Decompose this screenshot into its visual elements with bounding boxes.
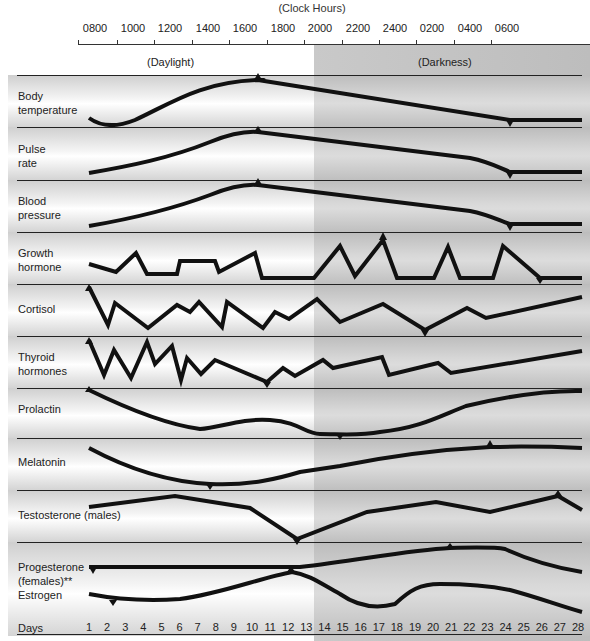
row-label-line: Body bbox=[18, 89, 77, 103]
day-tick-label: 7 bbox=[195, 621, 201, 633]
growth-hormone-curve bbox=[89, 240, 582, 278]
progesterone-curve bbox=[89, 548, 582, 572]
pulse-peak-marker bbox=[254, 126, 262, 132]
body-temp-peak-marker bbox=[254, 73, 262, 80]
day-tick-label: 5 bbox=[158, 621, 164, 633]
cortisol-peak-marker bbox=[85, 284, 93, 291]
day-tick-label: 1 bbox=[86, 621, 92, 633]
day-tick-label: 18 bbox=[391, 621, 403, 633]
day-tick-label: 26 bbox=[536, 621, 548, 633]
cortisol-trough-marker bbox=[421, 330, 429, 337]
days-label: Days bbox=[18, 621, 43, 635]
day-tick-label: 11 bbox=[264, 621, 275, 633]
row-label: Melatonin bbox=[18, 455, 66, 469]
row-label: Thyroidhormones bbox=[18, 350, 67, 378]
row-label-line: Estrogen bbox=[18, 588, 84, 602]
row-label-line: Testosterone (males) bbox=[18, 508, 121, 522]
row-label: Progesterone(females)**Estrogen bbox=[18, 560, 84, 602]
row-label: Pulserate bbox=[18, 142, 46, 170]
estrogen-trough-marker bbox=[109, 600, 117, 606]
row-label: Growthhormone bbox=[18, 246, 61, 274]
blood-pressure-curve bbox=[89, 185, 582, 226]
row-label: Prolactin bbox=[18, 402, 61, 416]
row-label-line: rate bbox=[18, 156, 46, 170]
melatonin-peak-marker bbox=[486, 440, 494, 447]
melatonin-curve bbox=[89, 447, 582, 485]
bp-peak-marker bbox=[254, 178, 262, 185]
peak-trough-markers bbox=[85, 73, 562, 606]
day-tick-label: 14 bbox=[318, 621, 330, 633]
day-tick-label: 27 bbox=[554, 621, 566, 633]
row-label-line: Blood bbox=[18, 194, 61, 208]
bp-trough-marker bbox=[506, 224, 514, 231]
progesterone-peak-marker bbox=[446, 543, 454, 548]
day-tick-label: 2 bbox=[104, 621, 110, 633]
prolactin-trough-marker bbox=[336, 434, 344, 440]
day-tick-label: 20 bbox=[427, 621, 439, 633]
day-tick-label: 3 bbox=[122, 621, 128, 633]
thyroid-peak-marker bbox=[85, 337, 93, 344]
day-tick-label: 10 bbox=[246, 621, 258, 633]
estrogen-curve bbox=[89, 572, 582, 612]
day-tick-label: 4 bbox=[140, 621, 146, 633]
row-label: Bloodpressure bbox=[18, 194, 61, 222]
day-tick-label: 6 bbox=[176, 621, 182, 633]
pulse-rate-curve bbox=[89, 132, 582, 173]
row-label-line: Prolactin bbox=[18, 402, 61, 416]
row-label: Testosterone (males) bbox=[18, 508, 121, 522]
row-label-line: Thyroid bbox=[18, 350, 67, 364]
day-tick-label: 15 bbox=[336, 621, 348, 633]
testosterone-trough-marker bbox=[293, 539, 301, 545]
day-tick-label: 23 bbox=[481, 621, 493, 633]
thyroid-trough-marker bbox=[263, 382, 271, 388]
day-tick-label: 12 bbox=[282, 621, 294, 633]
gh-peak-marker bbox=[379, 232, 387, 240]
day-tick-label: 19 bbox=[409, 621, 421, 633]
row-label-line: Growth bbox=[18, 246, 61, 260]
day-tick-label: 25 bbox=[518, 621, 530, 633]
row-label: Cortisol bbox=[18, 302, 55, 316]
day-tick-label: 8 bbox=[213, 621, 219, 633]
row-label-line: hormones bbox=[18, 364, 67, 378]
day-tick-label: 9 bbox=[231, 621, 237, 633]
day-tick-label: 17 bbox=[373, 621, 385, 633]
day-tick-label: 21 bbox=[445, 621, 457, 633]
row-label-line: Progesterone bbox=[18, 560, 84, 574]
day-tick-label: 22 bbox=[463, 621, 475, 633]
day-tick-label: 13 bbox=[300, 621, 312, 633]
row-label-line: pressure bbox=[18, 208, 61, 222]
day-tick-label: 28 bbox=[572, 621, 584, 633]
row-label-line: temperature bbox=[18, 103, 77, 117]
row-label: Bodytemperature bbox=[18, 89, 77, 117]
pulse-trough-marker bbox=[506, 172, 514, 179]
cortisol-curve bbox=[89, 287, 582, 330]
row-label-line: Melatonin bbox=[18, 455, 66, 469]
progesterone-trough-marker bbox=[89, 567, 97, 574]
row-label-line: hormone bbox=[18, 260, 61, 274]
testosterone-curve bbox=[89, 496, 582, 539]
curves-plot bbox=[0, 0, 590, 641]
prolactin-curve bbox=[89, 390, 582, 435]
melatonin-trough-marker bbox=[206, 484, 214, 490]
row-label-line: Pulse bbox=[18, 142, 46, 156]
day-tick-label: 24 bbox=[499, 621, 511, 633]
thyroid-hormones-curve bbox=[89, 340, 582, 382]
body-temp-trough-marker bbox=[506, 120, 514, 127]
row-label-line: Cortisol bbox=[18, 302, 55, 316]
row-label-line: (females)** bbox=[18, 574, 84, 588]
testosterone-peak-marker bbox=[554, 490, 562, 496]
day-tick-label: 16 bbox=[355, 621, 367, 633]
gh-trough-marker bbox=[536, 278, 544, 284]
prolactin-peak-marker bbox=[85, 386, 93, 392]
body-temperature-curve bbox=[89, 80, 582, 125]
